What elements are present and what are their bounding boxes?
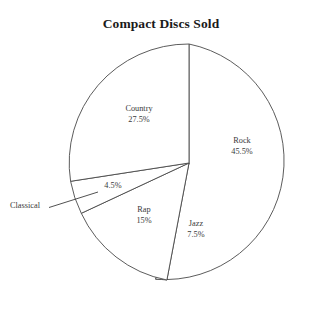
pie-label-jazz-value: 7.5% xyxy=(172,230,220,241)
pie-label-classical-value: 4.5% xyxy=(95,181,131,192)
pie-chart-graphic xyxy=(0,0,322,309)
pie-label-rock-name: Rock xyxy=(215,136,269,147)
pie-chart-figure: Compact Discs Sold Rock 45.5% Country 27… xyxy=(0,0,322,309)
pie-label-rock: Rock 45.5% xyxy=(215,136,269,158)
pie-label-jazz: Jazz 7.5% xyxy=(172,219,220,241)
pie-label-classical: Classical xyxy=(10,201,56,212)
pie-label-country-value: 27.5% xyxy=(103,115,175,126)
pie-label-country-name: Country xyxy=(103,104,175,115)
pie-label-rock-value: 45.5% xyxy=(215,147,269,158)
pie-label-rap-value: 15% xyxy=(118,216,170,227)
pie-label-classical-value-wrap: 4.5% xyxy=(95,181,131,192)
pie-label-jazz-name: Jazz xyxy=(172,219,220,230)
pie-label-classical-name: Classical xyxy=(10,201,56,212)
pie-label-rap: Rap 15% xyxy=(118,205,170,227)
pie-label-country: Country 27.5% xyxy=(103,104,175,126)
pie-label-rap-name: Rap xyxy=(118,205,170,216)
